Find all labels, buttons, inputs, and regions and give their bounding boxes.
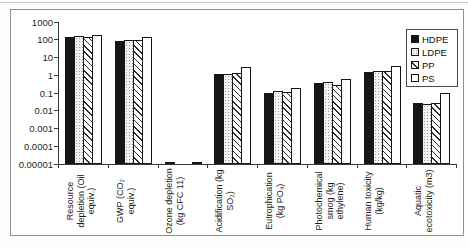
- category-label: Human toxicity (kg/kg): [363, 167, 399, 235]
- y-tick-mark: [54, 57, 58, 58]
- category-label: Aquatic ecotoxicity (m3): [413, 167, 449, 235]
- dotted-light-swatch-icon: [411, 48, 419, 56]
- y-tick-label: 100: [37, 34, 53, 45]
- y-tick-label: 10: [42, 52, 53, 63]
- y-tick-mark: [54, 75, 58, 76]
- bar-ps: [241, 67, 251, 165]
- x-tick-mark: [257, 164, 258, 168]
- y-tick-mark: [54, 22, 58, 23]
- bar-ps: [142, 37, 152, 164]
- bar-ps: [291, 88, 301, 164]
- chart-frame: HDPELDPEPPPS 10001001010.10.010.0010.000…: [10, 9, 464, 236]
- bar-hdpe: [165, 162, 175, 164]
- y-tick-label: 0.001: [29, 123, 53, 134]
- y-tick-mark: [54, 146, 58, 147]
- plain-white-swatch-icon: [411, 74, 419, 82]
- bar-ps: [341, 79, 351, 164]
- legend-item-hdpe: HDPE: [411, 34, 454, 44]
- legend-item-pp: PP: [411, 60, 454, 70]
- x-tick-mark: [158, 164, 159, 168]
- solid-black-swatch-icon: [411, 35, 419, 43]
- diagonal-hatch-swatch-icon: [411, 61, 419, 69]
- category-label: Ozone depletion (kg CFC 11): [164, 167, 200, 235]
- x-tick-mark: [58, 164, 59, 168]
- y-tick-label: 0.1: [40, 87, 53, 98]
- y-tick-mark: [54, 128, 58, 129]
- x-tick-mark: [108, 164, 109, 168]
- category-label: Eutrophication (kg PO₄): [264, 167, 300, 235]
- y-tick-label: 1000: [32, 16, 53, 27]
- x-tick-mark: [307, 164, 308, 168]
- y-axis-line: [58, 22, 59, 166]
- y-tick-label: 0.00001: [19, 158, 53, 169]
- y-tick-mark: [54, 93, 58, 94]
- y-tick-mark: [54, 110, 58, 111]
- y-tick-label: 0.01: [35, 105, 54, 116]
- legend-label: LDPE: [422, 47, 447, 58]
- category-label: Resource depletion (Oil equiv.): [65, 167, 101, 235]
- y-tick-label: 0.0001: [24, 140, 53, 151]
- category-label: Photochemical smog (kg ethylene): [314, 167, 350, 235]
- bar-ps: [192, 162, 202, 164]
- y-tick-label: 1: [48, 69, 53, 80]
- x-tick-mark: [357, 164, 358, 168]
- legend-label: HDPE: [422, 34, 448, 45]
- category-label: Acidification (kg SO₂): [214, 167, 250, 235]
- x-tick-mark: [406, 164, 407, 168]
- category-label: GWP (CO₂ equiv.): [115, 167, 151, 235]
- bar-ps: [440, 93, 450, 164]
- bar-ps: [92, 35, 102, 165]
- legend-item-ps: PS: [411, 73, 454, 83]
- bar-ps: [391, 66, 401, 164]
- x-tick-mark: [207, 164, 208, 168]
- legend-label: PS: [422, 73, 435, 84]
- y-tick-mark: [54, 39, 58, 40]
- legend-box: HDPELDPEPPPS: [406, 29, 458, 87]
- x-tick-mark: [456, 164, 457, 168]
- figure-canvas: HDPELDPEPPPS 10001001010.10.010.0010.000…: [0, 0, 468, 248]
- page-rule-divider: [0, 2, 468, 3]
- legend-item-ldpe: LDPE: [411, 47, 454, 57]
- legend-label: PP: [422, 60, 435, 71]
